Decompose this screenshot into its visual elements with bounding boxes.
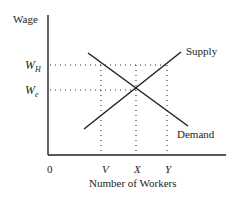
we-label: We [25, 83, 39, 99]
demand-label: Demand [177, 128, 215, 140]
y-label: Y [165, 163, 173, 175]
x-axis-label: Number of Workers [89, 177, 177, 189]
v-label: V [102, 163, 110, 175]
y-axis-label: Wage [13, 13, 38, 25]
origin-label: 0 [47, 163, 53, 175]
x-label: X [133, 163, 142, 175]
supply-label: Supply [186, 45, 218, 57]
labor-market-chart: Wage Number of Workers WH We 0 V X Y Sup… [0, 0, 234, 197]
demand-curve [88, 53, 188, 126]
wh-label: WH [25, 58, 42, 74]
